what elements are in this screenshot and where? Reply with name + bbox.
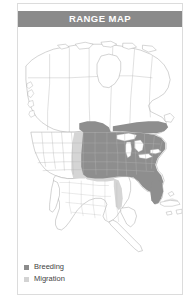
page-title: RANGE MAP: [69, 14, 131, 24]
jamaica: [166, 211, 172, 215]
bahamas: [168, 191, 174, 196]
hispaniola: [176, 209, 182, 214]
legend-item-migration: Migration: [24, 274, 182, 284]
legend-label-migration: Migration: [34, 275, 65, 283]
legend-label-breeding: Breeding: [34, 263, 64, 271]
breeding-swatch-icon: [24, 265, 29, 270]
cuba: [160, 200, 180, 206]
caribbean-islands: [160, 191, 182, 215]
migration-swatch-icon: [24, 277, 29, 282]
legend-item-breeding: Breeding: [24, 262, 182, 272]
canada-region: [26, 41, 174, 135]
card-header: RANGE MAP: [18, 11, 182, 27]
map-legend: Breeding Migration: [18, 260, 182, 294]
range-map-card: RANGE MAP: [17, 3, 183, 295]
range-map-page: RANGE MAP: [0, 0, 196, 306]
central-america: [109, 220, 143, 252]
north-america-map-svg: [18, 27, 182, 260]
yucatan-peninsula: [121, 207, 137, 227]
range-map-figure: [18, 27, 182, 260]
